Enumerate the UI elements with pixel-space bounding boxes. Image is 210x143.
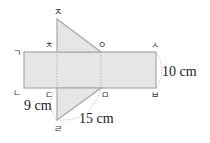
vertex-label-m: ㅁ	[101, 90, 109, 100]
prism-net-diagram: ㅈ ㅊ ㅇ ㅅ ㄱ ㄴ ㄷ ㅁ ㅂ ㄹ 10 cm 9 cm 15 cm	[0, 0, 210, 143]
vertex-label-n: ㄴ	[13, 88, 21, 98]
rectangle-faces	[24, 52, 156, 88]
top-triangle-face	[57, 19, 101, 52]
vertex-label-b: ㅂ	[151, 90, 159, 100]
vertex-label-ch: ㅊ	[45, 40, 53, 50]
dim-label-9cm: 9 cm	[24, 98, 52, 113]
dim-label-10cm: 10 cm	[162, 64, 197, 79]
vertex-label-o: ㅇ	[98, 40, 106, 50]
dim-label-15cm: 15 cm	[79, 111, 114, 126]
vertex-label-s: ㅅ	[151, 40, 159, 50]
vertex-label-j: ㅈ	[54, 7, 62, 17]
vertex-label-g: ㄱ	[13, 48, 21, 58]
vertex-label-r: ㄹ	[54, 124, 62, 134]
